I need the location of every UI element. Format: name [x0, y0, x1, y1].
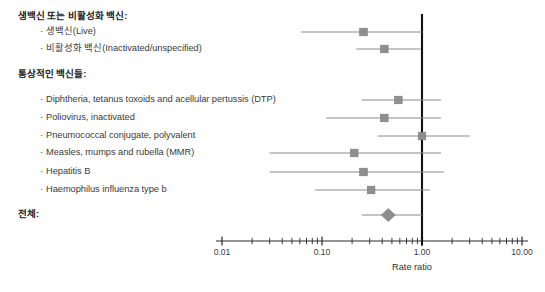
estimate-square-marker: [381, 114, 389, 122]
estimate-square-marker: [360, 28, 368, 36]
estimate-square-marker: [367, 186, 375, 194]
estimate-square-marker: [381, 45, 389, 53]
forest-plot: [0, 0, 545, 292]
estimate-square-marker: [395, 96, 403, 104]
summary-diamond-marker: [381, 209, 395, 222]
estimate-square-marker: [418, 132, 426, 140]
estimate-square-marker: [360, 168, 368, 176]
estimate-square-marker: [350, 149, 358, 157]
